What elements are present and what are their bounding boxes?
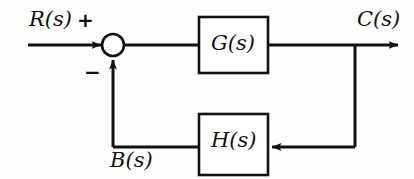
feedback-signal-label: B(s): [110, 150, 153, 171]
feedback-block-label: H(s): [211, 130, 256, 151]
forward-block-label: G(s): [211, 33, 255, 54]
summing-junction-circle: [102, 34, 124, 56]
output-signal-label: C(s): [357, 9, 400, 30]
summing-junction-minus-sign: −: [84, 62, 101, 82]
block-diagram-canvas: R(s) C(s) B(s) G(s) H(s) + −: [0, 0, 414, 179]
input-signal-label: R(s): [29, 9, 72, 30]
summing-junction-plus-sign: +: [77, 10, 94, 30]
